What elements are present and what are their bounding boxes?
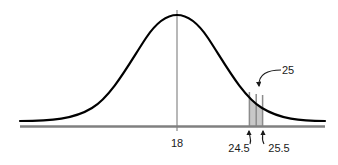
midpoint-annotation-label: 25 [282,64,294,76]
figure-background [0,0,338,165]
normal-curve-figure: 18 24.5 25.5 25 [0,0,338,165]
distribution-chart-svg: 18 24.5 25.5 25 [0,0,338,165]
lower-bound-label: 24.5 [228,142,249,154]
upper-bound-label: 25.5 [268,142,289,154]
mean-axis-label: 18 [171,137,183,149]
